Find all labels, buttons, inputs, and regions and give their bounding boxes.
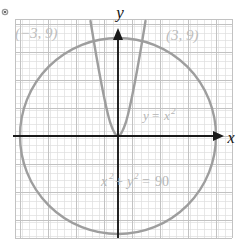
circle-eq-x: x bbox=[100, 174, 108, 189]
circle-eq-plus: + bbox=[115, 174, 123, 189]
circle-eq-equals: = bbox=[142, 174, 150, 189]
y-axis-label: y bbox=[114, 3, 124, 22]
y-axis-arrow bbox=[113, 28, 123, 40]
axis-lines bbox=[13, 28, 224, 238]
graph-figure: y x (−3, 9) (3, 9) y = x 2 x 2 + y 2 = 9… bbox=[0, 0, 240, 240]
circle-eq-y-exponent: 2 bbox=[134, 171, 139, 181]
circle-equation-label: x 2 + y 2 = 90 bbox=[100, 171, 169, 189]
point-label-right: (3, 9) bbox=[166, 27, 199, 44]
parabola-eq-equals: = bbox=[152, 108, 159, 123]
x-axis-label: x bbox=[226, 129, 234, 146]
parabola-equation-label: y = x 2 bbox=[141, 106, 176, 123]
coordinate-plane-svg: y x (−3, 9) (3, 9) y = x 2 x 2 + y 2 = 9… bbox=[0, 0, 240, 240]
parabola-eq-x: x bbox=[163, 108, 170, 123]
corner-mark-dot-icon bbox=[4, 11, 6, 13]
circle-eq-value: 90 bbox=[155, 174, 169, 189]
circle-eq-x-exponent: 2 bbox=[109, 171, 114, 181]
parabola-eq-exponent: 2 bbox=[171, 106, 176, 116]
parabola-eq-y: y bbox=[141, 108, 149, 123]
circle-eq-y: y bbox=[125, 174, 134, 189]
point-label-left: (−3, 9) bbox=[15, 25, 58, 42]
x-axis-arrow bbox=[213, 131, 224, 141]
